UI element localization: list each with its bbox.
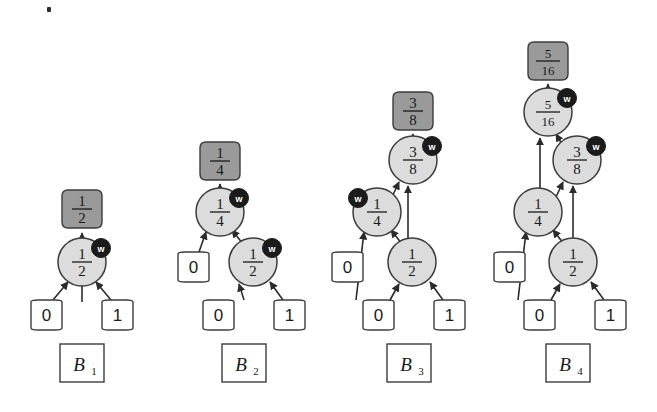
w-badge-label: w — [427, 142, 436, 152]
group-label-box-B1: B 1 — [60, 344, 104, 382]
output-node-B2: 1 4 — [200, 142, 240, 180]
output-denominator: 4 — [216, 162, 224, 178]
input-b2-in0a: 0 — [178, 252, 209, 282]
group-B4: 5 16 5 16 w 3 8 w — [494, 42, 626, 382]
node-b3-c3: 1 2 — [388, 238, 436, 286]
diagram-svg: 1 2 1 2 w 0 1 — [0, 0, 657, 412]
node-denominator: 4 — [534, 213, 542, 229]
output-node-B3: 3 8 — [393, 92, 433, 130]
w-badge: w — [263, 239, 282, 258]
output-node-B1: 1 2 — [62, 190, 102, 228]
group-label: B — [559, 354, 571, 375]
node-denominator: 8 — [573, 161, 581, 177]
w-badge: w — [92, 239, 111, 258]
figure-canvas: 1 2 1 2 w 0 1 — [0, 0, 657, 412]
group-label: B — [73, 354, 85, 375]
edge-in1-to-half — [430, 282, 443, 300]
w-badge-label: w — [234, 194, 243, 204]
edge-in0-to-node — [53, 282, 68, 300]
w-badge-label: w — [267, 244, 276, 254]
node-numerator: 1 — [78, 246, 86, 262]
node-numerator: 1 — [373, 196, 381, 212]
input-value: 0 — [535, 306, 544, 325]
node-denominator: 4 — [216, 213, 224, 229]
input-value: 1 — [285, 306, 294, 325]
node-numerator: 1 — [534, 196, 542, 212]
group-label-box-B4: B 4 — [546, 344, 590, 382]
node-b4-c2: 3 8 w — [553, 136, 606, 184]
group-label-box-B3: B 3 — [387, 344, 431, 382]
node-b1-c1: 1 2 w — [58, 238, 111, 286]
input-value: 0 — [343, 258, 352, 277]
group-label-subscript: 3 — [418, 365, 424, 377]
input-b1-in0: 0 — [31, 300, 62, 330]
output-denominator: 2 — [78, 210, 86, 226]
node-numerator: 3 — [573, 144, 581, 160]
input-value: 1 — [445, 306, 454, 325]
node-denominator: 2 — [408, 263, 416, 279]
w-badge: w — [230, 189, 249, 208]
group-label-subscript: 1 — [91, 365, 97, 377]
edge-in0-to-half — [390, 284, 399, 300]
node-denominator: 16 — [542, 114, 556, 129]
output-numerator: 1 — [216, 145, 224, 161]
edge-in1-to-node — [96, 282, 111, 300]
output-node-B4: 5 16 — [528, 42, 568, 80]
node-b3-c1: 3 8 w — [389, 136, 442, 184]
w-badge-label: w — [353, 194, 362, 204]
w-badge-label: w — [96, 244, 105, 254]
node-denominator: 2 — [249, 263, 257, 279]
group-label: B — [235, 354, 247, 375]
input-b4-in0b: 0 — [524, 300, 555, 330]
input-b2-in1: 1 — [274, 300, 305, 330]
group-B1: 1 2 1 2 w 0 1 — [31, 190, 133, 382]
group-label-subscript: 4 — [577, 365, 583, 377]
group-B3: 3 8 3 8 w 1 4 w — [332, 92, 465, 382]
output-numerator: 3 — [409, 95, 417, 111]
node-b2-c1: 1 4 w — [196, 188, 249, 236]
edge-quarter-to-eighth — [556, 182, 563, 197]
w-badge: w — [587, 137, 606, 156]
node-denominator: 8 — [409, 161, 417, 177]
node-b3-c2: 1 4 w — [349, 188, 402, 236]
input-b3-in0a: 0 — [332, 252, 363, 282]
node-numerator: 5 — [545, 97, 552, 112]
edge-in0-to-half — [239, 284, 244, 300]
edge-in0-to-quarter — [199, 232, 206, 252]
w-badge: w — [423, 137, 442, 156]
w-badge-label: w — [562, 94, 571, 104]
node-b2-c2: 1 2 w — [229, 238, 282, 286]
output-numerator: 5 — [545, 46, 552, 61]
node-numerator: 1 — [408, 246, 416, 262]
input-value: 1 — [113, 306, 122, 325]
input-value: 0 — [505, 258, 514, 277]
input-b4-in1: 1 — [595, 300, 626, 330]
input-value: 0 — [42, 306, 51, 325]
edge-in0-to-half — [551, 284, 560, 300]
node-denominator: 2 — [569, 263, 577, 279]
w-badge: w — [349, 189, 368, 208]
output-denominator: 8 — [409, 112, 417, 128]
output-denominator: 16 — [542, 63, 556, 78]
w-badge: w — [558, 89, 577, 108]
group-label-subscript: 2 — [253, 365, 259, 377]
node-numerator: 1 — [249, 246, 257, 262]
group-B2: 1 4 1 4 w 1 2 w — [178, 142, 305, 382]
group-label-box-B2: B 2 — [222, 344, 266, 382]
node-numerator: 3 — [409, 144, 417, 160]
input-b3-in0b: 0 — [363, 300, 394, 330]
input-value: 1 — [606, 306, 615, 325]
output-numerator: 1 — [78, 193, 86, 209]
input-b1-in1: 1 — [102, 300, 133, 330]
w-badge-label: w — [591, 142, 600, 152]
node-b4-c1: 5 16 w — [524, 88, 577, 136]
group-label: B — [400, 354, 412, 375]
node-denominator: 2 — [78, 263, 86, 279]
edge-in1-to-half — [270, 282, 283, 300]
input-b3-in1: 1 — [434, 300, 465, 330]
input-b4-in0a: 0 — [494, 252, 525, 282]
node-b4-c4: 1 2 — [549, 238, 597, 286]
input-value: 0 — [189, 258, 198, 277]
edge-in1-to-half — [591, 282, 604, 300]
input-value: 0 — [214, 306, 223, 325]
